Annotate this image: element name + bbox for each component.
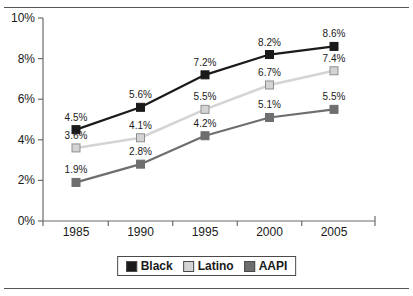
data-marker-black (137, 103, 145, 111)
legend-item-aapi[interactable]: AAPI (244, 260, 288, 272)
plot-area (43, 18, 375, 221)
x-axis-tick-label: 1990 (111, 226, 171, 238)
chart-canvas (43, 18, 375, 221)
legend-item-latino[interactable]: Latino (183, 260, 234, 272)
data-marker-aapi (72, 178, 80, 186)
legend-label: Latino (198, 260, 234, 272)
x-axis-tick-label: 2000 (240, 226, 300, 238)
data-marker-black (201, 71, 209, 79)
data-marker-aapi (266, 113, 274, 121)
legend-swatch-icon (183, 261, 194, 272)
legend-item-black[interactable]: Black (126, 260, 173, 272)
legend: BlackLatinoAAPI (117, 256, 297, 276)
y-axis-tick-label: 4% (0, 134, 35, 146)
figure: 10%8%6%4%2%0% 19851990199520002005 4.5%5… (0, 0, 413, 296)
y-axis-tick-label: 8% (0, 53, 35, 65)
y-axis-tick-label: 6% (0, 93, 35, 105)
data-marker-black (266, 51, 274, 59)
legend-label: AAPI (259, 260, 288, 272)
y-axis-tick-label: 2% (0, 174, 35, 186)
y-axis-tick-label: 0% (0, 215, 35, 227)
bottom-divider-rule (4, 288, 409, 289)
data-marker-latino (72, 144, 80, 152)
data-marker-latino (266, 81, 274, 89)
data-marker-black (72, 126, 80, 134)
series-line-aapi (76, 109, 334, 182)
data-marker-aapi (201, 132, 209, 140)
legend-swatch-icon (244, 261, 255, 272)
data-marker-black (330, 42, 338, 50)
x-axis-tick-label: 2005 (304, 226, 364, 238)
x-axis-tick-label: 1995 (175, 226, 235, 238)
legend-label: Black (141, 260, 173, 272)
data-marker-aapi (137, 160, 145, 168)
legend-swatch-icon (126, 261, 137, 272)
data-marker-latino (330, 67, 338, 75)
top-divider-rule (4, 7, 409, 8)
data-marker-latino (201, 105, 209, 113)
y-axis-tick-label: 10% (0, 12, 35, 24)
series-line-black (76, 46, 334, 129)
data-marker-aapi (330, 105, 338, 113)
data-marker-latino (137, 134, 145, 142)
x-axis-tick-label: 1985 (46, 226, 106, 238)
